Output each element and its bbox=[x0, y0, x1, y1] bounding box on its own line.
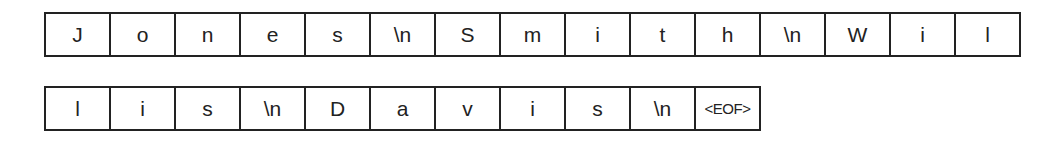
char-cell: S bbox=[434, 14, 499, 55]
char-cell: J bbox=[46, 14, 109, 55]
char-cell: e bbox=[239, 14, 304, 55]
char-cell: i bbox=[564, 14, 629, 55]
char-cell: l bbox=[46, 88, 109, 129]
newline-cell: \n bbox=[629, 88, 694, 129]
char-cell: v bbox=[434, 88, 499, 129]
newline-cell: \n bbox=[239, 88, 304, 129]
char-cell: o bbox=[109, 14, 174, 55]
eof-marker-cell: <EOF> bbox=[694, 88, 759, 129]
char-cell: l bbox=[954, 14, 1019, 55]
char-cell: i bbox=[109, 88, 174, 129]
char-cell: i bbox=[499, 88, 564, 129]
char-cell: D bbox=[304, 88, 369, 129]
char-cell: h bbox=[694, 14, 759, 55]
char-cell: s bbox=[304, 14, 369, 55]
char-cell: t bbox=[629, 14, 694, 55]
char-cell: a bbox=[369, 88, 434, 129]
char-cell: W bbox=[824, 14, 889, 55]
char-cell: n bbox=[174, 14, 239, 55]
character-stream-row-2: l i s \n D a v i s \n <EOF> bbox=[44, 86, 761, 131]
char-cell: s bbox=[174, 88, 239, 129]
char-cell: m bbox=[499, 14, 564, 55]
newline-cell: \n bbox=[759, 14, 824, 55]
newline-cell: \n bbox=[369, 14, 434, 55]
char-cell: i bbox=[889, 14, 954, 55]
char-cell: s bbox=[564, 88, 629, 129]
character-stream-row-1: J o n e s \n S m i t h \n W i l bbox=[44, 12, 1021, 57]
